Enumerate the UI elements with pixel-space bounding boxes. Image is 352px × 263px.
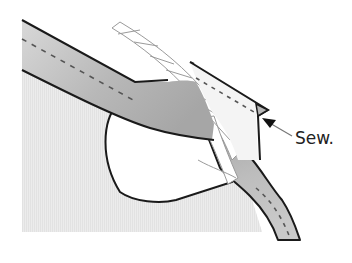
arrow-head-icon xyxy=(262,118,276,128)
sew-label: Sew. xyxy=(295,128,334,148)
